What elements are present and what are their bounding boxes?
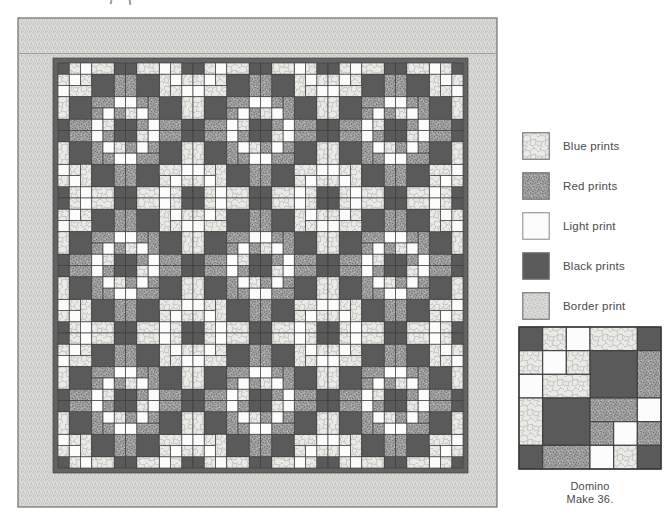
- legend-item-border-print: Border print: [522, 292, 667, 320]
- block-caption-name: Domino: [519, 480, 661, 493]
- legend-item-light-print: Light print: [522, 212, 667, 240]
- block-caption: Domino Make 36.: [519, 480, 661, 505]
- page: Blue prints Red prints Light print Black…: [0, 0, 671, 522]
- legend-item-red-prints: Red prints: [522, 172, 667, 200]
- legend-item-black-prints: Black prints: [522, 252, 667, 280]
- legend-label-red-prints: Red prints: [563, 180, 617, 192]
- example-block: Domino Make 36.: [519, 327, 661, 505]
- legend-swatch-black-prints: [522, 252, 550, 280]
- legend-label-black-prints: Black prints: [563, 260, 625, 272]
- legend-swatch-border-print: [522, 292, 550, 320]
- legend-swatch-red-prints: [522, 172, 550, 200]
- legend-swatch-light-print: [522, 212, 550, 240]
- block-caption-make: Make 36.: [519, 493, 661, 506]
- legend-label-light-print: Light print: [563, 220, 616, 232]
- domino-block-diagram: [519, 327, 661, 469]
- legend-label-border-print: Border print: [563, 300, 625, 312]
- legend-label-blue-prints: Blue prints: [563, 140, 620, 152]
- legend-item-blue-prints: Blue prints: [522, 132, 667, 160]
- legend-swatch-blue-prints: [522, 132, 550, 160]
- fabric-legend: Blue prints Red prints Light print Black…: [522, 132, 667, 332]
